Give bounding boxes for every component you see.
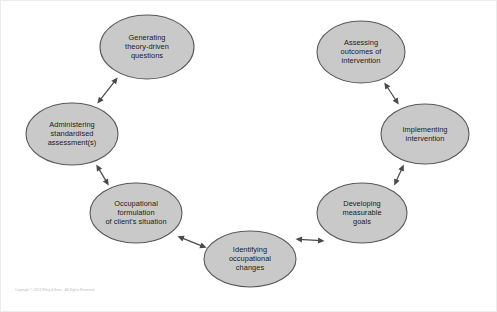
node-administering-assessments[interactable] <box>26 103 118 165</box>
connector-arrow <box>295 236 324 243</box>
node-occupational-formulation[interactable] <box>90 183 182 243</box>
copyright-notice: Copyright © 2013 Wiley & Sons - All Righ… <box>15 288 94 292</box>
connector-arrow <box>96 164 108 185</box>
nodes-group <box>26 15 469 287</box>
node-identifying-changes[interactable] <box>204 231 296 287</box>
connector-arrow <box>394 164 404 185</box>
node-implementing-intervention[interactable] <box>381 104 469 164</box>
arrow-head-icon <box>97 97 103 104</box>
arrow-head-icon <box>384 82 390 89</box>
connector-arrow <box>97 77 117 103</box>
connector-arrow <box>177 236 206 248</box>
connector-arrow <box>384 82 398 104</box>
node-assessing-outcomes[interactable] <box>317 21 405 83</box>
node-generating-questions[interactable] <box>100 15 194 79</box>
arrow-head-icon <box>111 77 117 84</box>
arrow-head-icon <box>318 238 325 244</box>
arrow-head-icon <box>295 236 302 242</box>
node-developing-goals[interactable] <box>317 183 407 243</box>
arrow-head-icon <box>393 97 399 104</box>
diagram-page: Generatingtheory-drivenquestionsAdminist… <box>0 0 497 312</box>
cycle-diagram-canvas <box>1 1 497 312</box>
